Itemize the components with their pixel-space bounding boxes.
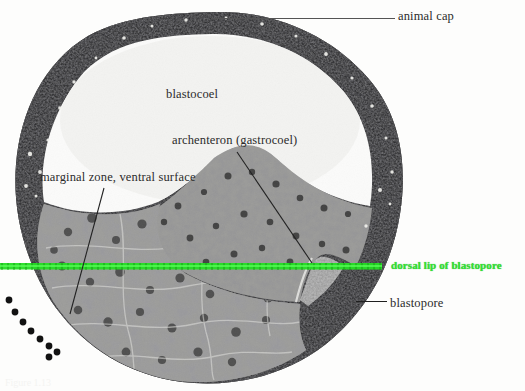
leader-line-marginal-zone	[70, 188, 104, 314]
diagonal-leader-lines	[0, 0, 525, 391]
label-marginal-zone: marginal zone, ventral surface	[40, 171, 196, 184]
label-blastocoel: blastocoel	[166, 88, 218, 101]
leader-line-archenteron	[237, 152, 312, 263]
caption-remnant: Figure 1.13	[5, 377, 51, 388]
label-dorsal-lip-of-blastopore: dorsal lip of blastopore	[391, 259, 502, 271]
label-blastopore: blastopore	[390, 297, 444, 310]
label-archenteron: archenteron (gastrocoel)	[172, 134, 297, 147]
figure-canvas: animal cap blastocoel archenteron (gastr…	[0, 0, 525, 391]
label-animal-cap: animal cap	[398, 10, 454, 23]
